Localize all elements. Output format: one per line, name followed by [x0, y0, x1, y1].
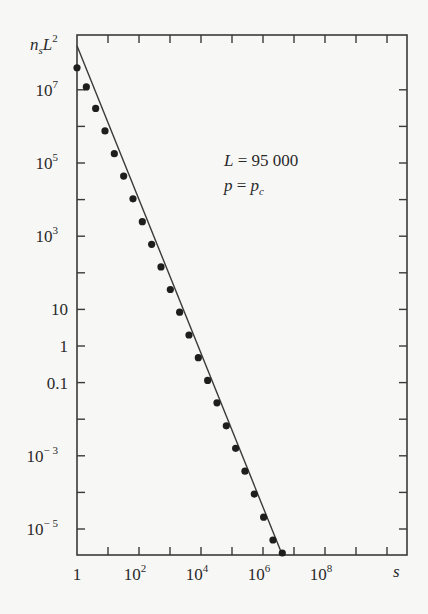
y-tick-label: 107 [36, 78, 59, 100]
data-point [213, 399, 220, 406]
data-point [157, 263, 164, 270]
y-axis-label: nsL2 [30, 32, 58, 56]
data-point [111, 150, 118, 157]
data-point [129, 195, 136, 202]
data-point [73, 64, 80, 71]
data-point [185, 331, 192, 338]
y-tick-label: 10 [51, 300, 68, 319]
data-point [83, 83, 90, 90]
y-tick-label: 105 [36, 151, 59, 173]
y-tick-label: 103 [36, 224, 59, 246]
x-tick-label: 1 [73, 565, 82, 584]
data-point [195, 354, 202, 361]
data-point [139, 218, 146, 225]
data-point [232, 445, 239, 452]
data-point [120, 172, 127, 179]
data-point [176, 309, 183, 316]
annotation-probability: p = pc [223, 176, 264, 197]
data-point [101, 127, 108, 134]
data-point [223, 422, 230, 429]
data-point [148, 241, 155, 248]
data-points [73, 64, 286, 556]
data-point [241, 468, 248, 475]
data-point [251, 490, 258, 497]
x-tick-label: 104 [186, 562, 209, 584]
fit-line [77, 46, 282, 555]
x-tick-label: 106 [248, 562, 271, 584]
y-tick-label: 0.1 [47, 374, 68, 393]
data-point [204, 377, 211, 384]
data-point [167, 286, 174, 293]
percolation-cluster-size-chart: 11021041061081071051031010.110− 310− 5 n… [0, 0, 428, 614]
data-point [260, 514, 267, 521]
data-point [92, 105, 99, 112]
x-axis-label: s [393, 562, 400, 581]
y-tick-label: 1 [60, 337, 69, 356]
axis-ticks [77, 35, 407, 555]
x-tick-label: 102 [124, 562, 147, 584]
data-point [279, 549, 286, 556]
y-tick-label: 10− 3 [27, 444, 59, 466]
y-tick-label: 10− 5 [27, 517, 59, 539]
x-tick-label: 108 [310, 562, 333, 584]
power-law-fit-line [77, 46, 282, 555]
plot-frame [77, 35, 407, 555]
data-point [269, 536, 276, 543]
annotation-system-size: L = 95 000 [223, 151, 298, 170]
